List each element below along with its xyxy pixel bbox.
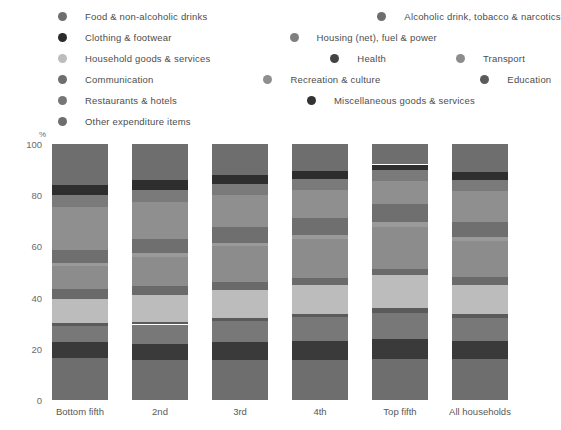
bar-segment[interactable] <box>292 171 348 179</box>
bar-segment[interactable] <box>52 323 108 326</box>
bar-segment[interactable] <box>452 180 508 192</box>
bar-segment[interactable] <box>372 170 428 182</box>
bar-segment[interactable] <box>372 275 428 308</box>
bar-segment[interactable] <box>212 243 268 247</box>
bar-segment[interactable] <box>132 190 188 202</box>
bar-segment[interactable] <box>212 318 268 321</box>
stacked-bar[interactable] <box>52 144 108 400</box>
legend-item[interactable]: Miscellaneous goods & services <box>307 96 475 106</box>
bar-segment[interactable] <box>52 358 108 400</box>
legend-item[interactable]: Education <box>480 75 551 85</box>
bar-segment[interactable] <box>52 144 108 185</box>
legend-item[interactable]: Recreation & culture <box>263 75 380 85</box>
bar-segment[interactable] <box>212 144 268 175</box>
bar-segment[interactable] <box>212 282 268 290</box>
bar-segment[interactable] <box>372 308 428 313</box>
bar-segment[interactable] <box>292 278 348 284</box>
bar-segment[interactable] <box>372 222 428 227</box>
bar-segment[interactable] <box>212 342 268 360</box>
bar-segment[interactable] <box>452 359 508 400</box>
bar-segment[interactable] <box>372 181 428 204</box>
bar-segment[interactable] <box>212 175 268 184</box>
legend-item[interactable]: Transport <box>456 54 525 64</box>
bar-segment[interactable] <box>452 144 508 172</box>
stacked-bar[interactable] <box>212 144 268 400</box>
bar-segment[interactable] <box>452 241 508 277</box>
bar-segment[interactable] <box>292 317 348 341</box>
bar-segment[interactable] <box>212 246 268 282</box>
stacked-bar[interactable] <box>292 144 348 400</box>
stacked-bar[interactable] <box>372 144 428 400</box>
bar-segment[interactable] <box>52 195 108 207</box>
legend-swatch-dot-icon <box>290 33 299 42</box>
bar-segment[interactable] <box>292 360 348 400</box>
bar-segment[interactable] <box>292 218 348 235</box>
bar-segment[interactable] <box>452 237 508 241</box>
bar-segment[interactable] <box>452 172 508 180</box>
legend-item[interactable]: Food & non-alcoholic drinks <box>58 12 207 22</box>
bar-segment[interactable] <box>132 253 188 257</box>
bar-segment[interactable] <box>452 314 508 318</box>
bar-segment[interactable] <box>52 207 108 251</box>
bar-segment[interactable] <box>52 266 108 289</box>
bar-segment[interactable] <box>452 277 508 285</box>
bar-segment[interactable] <box>292 341 348 360</box>
bar-segment[interactable] <box>372 359 428 400</box>
bar-segment[interactable] <box>52 263 108 266</box>
bar-segment[interactable] <box>132 257 188 286</box>
bar-segment[interactable] <box>132 239 188 253</box>
bar-segment[interactable] <box>52 250 108 263</box>
bar-segment[interactable] <box>372 204 428 222</box>
bar-segment[interactable] <box>452 222 508 237</box>
bar-segment[interactable] <box>132 325 188 344</box>
legend-item[interactable]: Alcoholic drink, tobacco & narcotics <box>377 12 560 22</box>
bar-segment[interactable] <box>132 295 188 322</box>
bar-segment[interactable] <box>132 286 188 295</box>
bar-segment[interactable] <box>132 202 188 239</box>
bar-segment[interactable] <box>132 180 188 190</box>
bar-segment[interactable] <box>52 299 108 323</box>
legend-item[interactable]: Health <box>330 54 386 64</box>
bar-segment[interactable] <box>372 227 428 269</box>
legend-item[interactable]: Other expenditure items <box>58 117 191 127</box>
bar-segment[interactable] <box>292 190 348 218</box>
bar-segment[interactable] <box>452 191 508 222</box>
bar-segment[interactable] <box>132 360 188 400</box>
legend-item[interactable]: Household goods & services <box>58 54 210 64</box>
bar-segment[interactable] <box>452 341 508 359</box>
bar-segment[interactable] <box>372 339 428 359</box>
bar-segment[interactable] <box>212 360 268 400</box>
bar-segment[interactable] <box>212 290 268 318</box>
bar-segment[interactable] <box>132 144 188 180</box>
bar-segment[interactable] <box>372 313 428 339</box>
bar-segment[interactable] <box>52 289 108 299</box>
bar-segment[interactable] <box>212 184 268 196</box>
bar-segment[interactable] <box>132 344 188 361</box>
bar-segment[interactable] <box>212 227 268 242</box>
bar-segment[interactable] <box>212 195 268 227</box>
bar-segment[interactable] <box>132 322 188 325</box>
bar-segment[interactable] <box>372 144 428 164</box>
bar-segment[interactable] <box>372 269 428 274</box>
bar-segment[interactable] <box>52 326 108 343</box>
bar-segment[interactable] <box>292 235 348 239</box>
bar-segment[interactable] <box>292 239 348 279</box>
legend-item[interactable]: Communication <box>58 75 153 85</box>
bar-segment[interactable] <box>52 342 108 357</box>
bar-segment[interactable] <box>292 144 348 171</box>
stacked-bar[interactable] <box>452 144 508 400</box>
bar-segment[interactable] <box>452 285 508 314</box>
bar-segment[interactable] <box>372 165 428 170</box>
bar-segment[interactable] <box>292 314 348 317</box>
bar-segment[interactable] <box>52 185 108 195</box>
bar-segment[interactable] <box>212 321 268 343</box>
legend-item[interactable]: Restaurants & hotels <box>58 96 177 106</box>
bar-segment[interactable] <box>292 285 348 314</box>
y-axis-tick-text: 100 <box>2 139 42 150</box>
legend-item[interactable]: Housing (net), fuel & power <box>290 33 437 43</box>
stacked-bar[interactable] <box>132 144 188 400</box>
legend-swatch-dot-icon <box>58 117 67 126</box>
bar-segment[interactable] <box>292 179 348 191</box>
legend-item[interactable]: Clothing & footwear <box>58 33 172 43</box>
bar-segment[interactable] <box>452 318 508 341</box>
